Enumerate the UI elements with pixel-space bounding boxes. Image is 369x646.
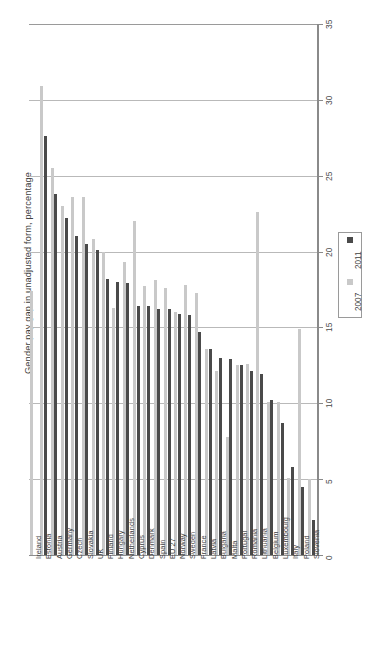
category-label-luxembourg: Luxembourg	[281, 517, 290, 559]
bar-2011-czech	[75, 236, 78, 555]
bar-group	[287, 24, 297, 555]
tick-label-30: 30	[324, 81, 334, 105]
tick-mark-5	[317, 479, 323, 480]
bar-2011-cyprus	[137, 306, 140, 555]
tick-mark-25	[317, 176, 323, 177]
bar-group	[92, 24, 102, 555]
tick-label-15: 15	[324, 308, 334, 332]
category-label-spain: Spain	[158, 540, 167, 559]
bar-group	[143, 24, 153, 555]
category-label-latvia: Latvia	[209, 539, 218, 559]
legend-swatch-2007	[347, 279, 353, 285]
bar-2011-austria	[54, 194, 57, 555]
tick-mark-20	[317, 252, 323, 253]
tick-label-20: 20	[324, 233, 334, 257]
gender-pay-gap-bar-chart: Gender pay gap in unadjusted form, perce…	[0, 0, 369, 646]
bar-2007-eu-27	[164, 288, 167, 555]
value-axis-line	[317, 24, 319, 555]
category-label-sweden: Sweden	[188, 532, 197, 559]
bar-group	[61, 24, 71, 555]
bar-group	[40, 24, 50, 555]
category-label-romania: Romania	[250, 529, 259, 559]
bar-group	[256, 24, 266, 555]
bar-2007-ireland	[30, 291, 33, 555]
bar-2007-czech	[71, 197, 74, 555]
bar-2011-portugal	[240, 365, 243, 555]
category-label-slovakia: Slovakia	[86, 530, 95, 559]
tick-label-10: 10	[324, 384, 334, 408]
bar-2011-spain	[157, 309, 160, 555]
bar-2007-spain	[154, 280, 157, 555]
bar-2011-estonia	[44, 136, 47, 555]
legend-swatch-2011	[347, 237, 353, 243]
bar-group	[226, 24, 236, 555]
bar-2011-finland	[106, 279, 109, 555]
category-label-germany: Germany	[65, 528, 74, 559]
bar-2007-netherlands	[123, 262, 126, 555]
bar-2007-estonia	[40, 86, 43, 555]
bar-group	[112, 24, 122, 555]
bar-2007-lithuania	[256, 212, 259, 555]
tick-mark-15	[317, 327, 323, 328]
bar-2011-hungary	[116, 282, 119, 555]
bar-2007-france	[195, 293, 198, 555]
category-label-portugal: Portugal	[240, 531, 249, 559]
bar-2007-poland	[298, 329, 301, 555]
tick-label-35: 35	[324, 5, 334, 29]
bar-2011-uk	[96, 250, 99, 555]
plot-area	[29, 24, 317, 555]
category-label-hungary: Hungary	[116, 530, 125, 559]
bar-group	[71, 24, 81, 555]
legend-label-2011: 2011	[354, 251, 363, 269]
bar-2007-finland	[102, 252, 105, 555]
category-label-estonia: Estonia	[44, 534, 53, 559]
bar-2007-norway	[174, 312, 177, 555]
category-label-lithuania: Lithuania	[260, 528, 269, 559]
category-label-finland: Finland	[106, 534, 115, 559]
bar-group	[102, 24, 112, 555]
bar-group	[298, 24, 308, 555]
category-label-austria: Austria	[55, 535, 64, 559]
category-label-italy: Italy	[291, 545, 300, 559]
bar-group	[205, 24, 215, 555]
bar-group	[164, 24, 174, 555]
category-label-uk: UK	[96, 549, 105, 559]
bar-group	[277, 24, 287, 555]
bar-2007-germany	[61, 206, 64, 555]
category-label-norway: Norway	[178, 533, 187, 559]
bar-2007-cyprus	[133, 221, 136, 555]
tick-label-0: 0	[324, 536, 334, 560]
bar-2011-france	[198, 332, 201, 555]
category-label-czech: Czech	[75, 538, 84, 559]
legend-label-2007: 2007	[354, 293, 363, 311]
bar-2007-austria	[51, 168, 54, 555]
bar-2007-denmark	[143, 286, 146, 555]
bar-group	[246, 24, 256, 555]
category-label-poland: Poland	[302, 535, 311, 559]
bar-2007-uk	[92, 239, 95, 555]
bar-group	[195, 24, 205, 555]
category-label-belgium: Belgium	[271, 532, 280, 559]
bar-group	[174, 24, 184, 555]
bar-2007-bulgaria	[215, 371, 218, 555]
bar-2011-denmark	[147, 306, 150, 555]
category-label-eu-27: EU 27	[168, 538, 177, 559]
bar-2011-eu-27	[168, 309, 171, 555]
bar-2007-romania	[246, 364, 249, 555]
tick-label-25: 25	[324, 157, 334, 181]
bar-2007-portugal	[236, 365, 239, 555]
bar-group	[123, 24, 133, 555]
bar-group	[133, 24, 143, 555]
bar-2011-malta	[229, 359, 232, 555]
bar-2007-slovakia	[82, 197, 85, 555]
category-label-france: France	[199, 535, 208, 559]
legend-entry-2011: 2011	[339, 233, 361, 275]
bar-group	[215, 24, 225, 555]
tick-mark-10	[317, 403, 323, 404]
bar-group	[236, 24, 246, 555]
bar-2011-netherlands	[126, 283, 129, 555]
bar-2007-hungary	[112, 308, 115, 555]
bar-2011-romania	[250, 371, 253, 555]
category-label-malta: Malta	[230, 540, 239, 559]
category-label-cyprus: Cyprus	[137, 535, 146, 559]
